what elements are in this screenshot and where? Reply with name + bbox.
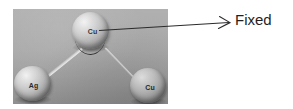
molecular-structure-figure: Cu Ag Cu Fixed <box>0 0 293 109</box>
atom-sphere-ag: Ag <box>14 66 51 101</box>
atom-label-cu-top: Cu <box>88 28 98 35</box>
atom-scene: Cu Ag Cu <box>13 9 168 104</box>
atom-label-cu-right: Cu <box>145 84 155 91</box>
structure-image-panel: Cu Ag Cu <box>13 9 168 104</box>
atom-label-ag: Ag <box>29 82 39 89</box>
arrowhead-icon <box>219 17 231 29</box>
atom-sphere-cu-top: Cu <box>72 12 109 49</box>
annotation-label-fixed: Fixed <box>235 12 272 27</box>
atom-sphere-cu-right: Cu <box>130 68 166 103</box>
